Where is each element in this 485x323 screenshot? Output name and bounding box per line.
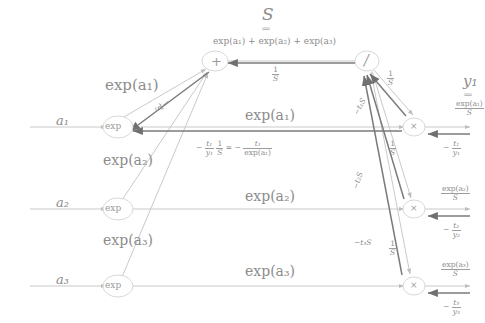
sum-symbol-S: S: [262, 4, 274, 24]
grad-y1-numerator: t₁: [452, 140, 461, 148]
edge-label-exp-a1-mid: exp(a₁): [245, 107, 295, 123]
one-over-S-row1-numerator: 1: [387, 70, 394, 78]
one-over-S-row2-denominator: S: [389, 148, 396, 157]
one-over-S-row1-denominator: S: [387, 78, 394, 87]
edge-label-neg-t3-S: −t₃S: [354, 238, 371, 247]
node-times2-label[interactable]: ×: [410, 203, 418, 213]
edge-label-exp-a3-mid: exp(a₃): [245, 263, 295, 279]
grad-y1-sign: −: [443, 143, 449, 152]
node-exp1-label[interactable]: exp: [105, 121, 121, 131]
output-y3-numerator: exp(a₃): [441, 261, 470, 269]
grad-y1-label: − t₁ y₁: [443, 140, 461, 157]
grad-y1-denominator: y₁: [452, 148, 461, 157]
edge-label-one-over-S-row1: 1 S: [387, 70, 394, 87]
output-y3-value: exp(a₃) S: [441, 261, 470, 278]
sum-to-divide-denominator: S: [272, 74, 279, 83]
edge-label-sum-to-divide: 1 S: [272, 66, 279, 83]
edge-label-one-over-S-row3: 1 S: [389, 240, 396, 257]
output-y3-denominator: S: [441, 269, 470, 278]
edge-label-exp-a3-upper: exp(a₃): [103, 232, 153, 248]
grad-y3-label: − t₃ y₃: [443, 299, 461, 316]
output-y2-numerator: exp(a₂): [441, 185, 470, 193]
output-y1-denominator: S: [455, 108, 484, 117]
node-divide-label[interactable]: /: [364, 52, 369, 68]
grad-y3-sign: −: [443, 302, 449, 311]
input-a2-label: a₂: [56, 195, 69, 210]
backward-identity-row1: − t₁ y₁ 1 S = − t₁ exp(a₁): [196, 140, 272, 157]
input-a3-label: a₃: [56, 272, 69, 287]
one-over-S-row3-denominator: S: [389, 248, 396, 257]
backward-identity-b-num: 1: [216, 140, 223, 148]
backward-identity-sign-a: −: [196, 143, 202, 152]
backward-identity-a-num: t₁: [205, 140, 214, 148]
edge-label-exp-a2-mid: exp(a₂): [245, 188, 295, 204]
diagram-canvas: + / exp exp exp × × × S ‖ exp(a₁) + exp(…: [0, 0, 485, 323]
backward-identity-sign-c: −: [235, 143, 241, 152]
backward-identity-c-den: exp(a₁): [243, 148, 272, 157]
grad-y2-numerator: t₂: [452, 222, 461, 230]
nodes-layer: [0, 0, 485, 323]
one-over-S-row3-numerator: 1: [389, 240, 396, 248]
node-times1-label[interactable]: ×: [410, 121, 418, 131]
grad-y3-numerator: t₃: [452, 299, 461, 307]
output-y1-symbol: y₁: [463, 72, 478, 90]
backward-identity-equals: =: [226, 143, 232, 152]
grad-y2-label: − t₂ y₂: [443, 222, 461, 239]
output-y2-value: exp(a₂) S: [441, 185, 470, 202]
backward-identity-c-num: t₁: [243, 140, 272, 148]
sum-to-divide-numerator: 1: [272, 66, 279, 74]
output-y1-value: exp(a₁) S: [455, 100, 484, 117]
edge-label-exp-a1-upper: exp(a₁): [105, 76, 159, 94]
edge-label-one-over-S-row2: 1 S: [389, 140, 396, 157]
backward-identity-b-den: S: [216, 148, 223, 157]
node-times3-label[interactable]: ×: [410, 280, 418, 290]
grad-y3-denominator: y₃: [452, 307, 461, 316]
one-over-S-row2-numerator: 1: [389, 140, 396, 148]
sum-expansion: exp(a₁) + exp(a₂) + exp(a₃): [213, 36, 336, 46]
input-a1-label: a₁: [56, 113, 69, 128]
grad-y2-sign: −: [443, 225, 449, 234]
output-y1-numerator: exp(a₁): [455, 100, 484, 108]
output-y1-equals: ‖: [464, 93, 473, 97]
node-plus-label[interactable]: +: [211, 54, 222, 69]
edge-label-exp-a2-upper: exp(a₂): [103, 152, 153, 168]
sum-equals-sign: ‖: [262, 27, 271, 31]
node-exp3-label[interactable]: exp: [105, 280, 121, 290]
backward-identity-a-den: y₁: [205, 148, 214, 157]
node-exp2-label[interactable]: exp: [105, 203, 121, 213]
grad-y2-denominator: y₂: [452, 230, 461, 239]
output-y2-denominator: S: [441, 193, 470, 202]
